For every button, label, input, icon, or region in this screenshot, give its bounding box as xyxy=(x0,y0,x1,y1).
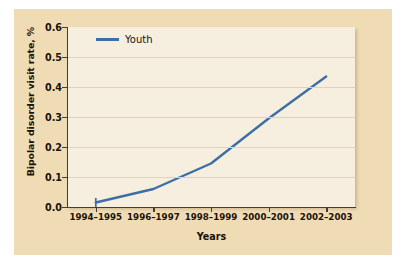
y-axis-tick-label: 0.0 xyxy=(32,202,62,213)
x-axis-tick-mark xyxy=(153,207,154,212)
y-axis-tick-labels: 0.00.10.20.30.40.50.6 xyxy=(32,22,62,212)
chart-figure: Bipolar disorder visit rate, % 0.00.10.2… xyxy=(0,0,406,271)
gridline xyxy=(67,177,355,178)
legend-label-youth: Youth xyxy=(125,34,153,45)
y-axis-tick-label: 0.6 xyxy=(32,22,62,33)
x-axis-title: Years xyxy=(67,231,356,242)
gridline xyxy=(67,117,355,118)
y-axis-tick-mark xyxy=(62,207,67,208)
y-axis-tick-mark xyxy=(62,147,67,148)
y-axis-line xyxy=(67,27,68,208)
legend-swatch-youth xyxy=(96,38,119,41)
y-axis-tick-mark xyxy=(62,87,67,88)
x-axis-tick-mark xyxy=(211,207,212,212)
chart-legend: Youth xyxy=(96,34,153,45)
y-axis-tick-label: 0.5 xyxy=(32,52,62,63)
gridline xyxy=(67,57,355,58)
y-axis-tick-mark xyxy=(62,177,67,178)
gridline xyxy=(67,147,355,148)
y-axis-tick-label: 0.2 xyxy=(32,142,62,153)
x-axis-tick-label: 2000–2001 xyxy=(242,212,295,222)
x-axis-tick-mark xyxy=(96,207,97,212)
x-axis-tick-label: 1996–1997 xyxy=(127,212,180,222)
gridline xyxy=(67,87,355,88)
x-axis-tick-labels: 1994–19951996–19971998–19992000–20012002… xyxy=(67,212,356,226)
y-axis-tick-mark xyxy=(62,117,67,118)
x-axis-tick-mark xyxy=(269,207,270,212)
x-axis-tick-label: 1998–1999 xyxy=(185,212,238,222)
x-axis-tick-mark xyxy=(326,207,327,212)
plot-area xyxy=(67,27,355,207)
y-axis-tick-mark xyxy=(62,27,67,28)
x-axis-tick-label: 2002–2003 xyxy=(300,212,353,222)
y-axis-tick-mark xyxy=(62,57,67,58)
series-polyline xyxy=(96,77,326,203)
x-axis-tick-label: 1994–1995 xyxy=(69,212,122,222)
y-axis-tick-label: 0.3 xyxy=(32,112,62,123)
y-axis-tick-label: 0.4 xyxy=(32,82,62,93)
y-axis-tick-label: 0.1 xyxy=(32,172,62,183)
